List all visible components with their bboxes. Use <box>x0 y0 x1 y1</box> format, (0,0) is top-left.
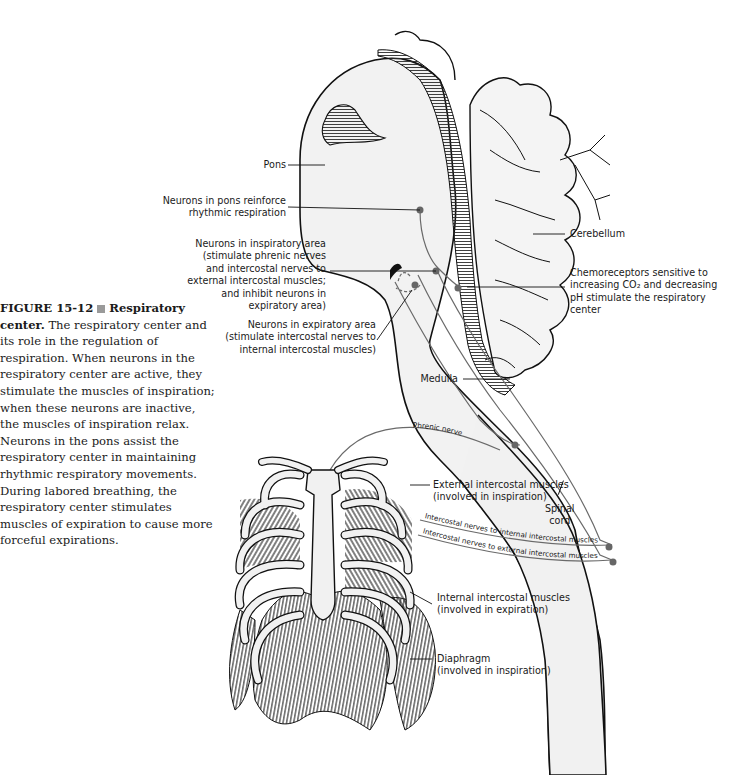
label-line: Diaphragm <box>437 653 551 665</box>
label-line: internal intercostal muscles) <box>190 344 376 356</box>
expiratory-area-label: Neurons in expiratory area (stimulate in… <box>190 319 376 356</box>
chemoreceptors-label: Chemoreceptors sensitive to increasing C… <box>570 267 717 317</box>
label-line: rhythmic respiration <box>130 207 286 219</box>
label-line: Internal intercostal muscles <box>437 592 570 604</box>
chemoreceptor-dot <box>455 285 462 292</box>
label-line: Neurons in pons reinforce <box>130 195 286 207</box>
label-line: center <box>570 304 717 316</box>
label-line: External intercostal muscles <box>433 479 569 491</box>
diaphragm-label: Diaphragm (involved in inspiration) <box>437 653 551 678</box>
rib-cage-drawing <box>230 460 436 730</box>
cerebellum-label: Cerebellum <box>570 228 625 240</box>
label-line: Chemoreceptors sensitive to <box>570 267 717 279</box>
pons-label: Pons <box>230 159 286 171</box>
external-synapse-dot <box>610 559 617 566</box>
pons-neurons-label: Neurons in pons reinforce rhythmic respi… <box>130 195 286 220</box>
inspiratory-area-label: Neurons in inspiratory area (stimulate p… <box>150 238 326 312</box>
label-line: external intercostal muscles; <box>150 275 326 287</box>
internal-intercostal-label: Internal intercostal muscles (involved i… <box>437 592 570 617</box>
label-line: expiratory area) <box>150 300 326 312</box>
label-line: cord <box>545 515 574 527</box>
internal-synapse-dot <box>606 544 613 551</box>
label-line: (involved in inspiration) <box>437 665 551 677</box>
label-line: and inhibit neurons in <box>150 288 326 300</box>
label-line: (involved in expiration) <box>437 604 570 616</box>
spinal-cord-label: Spinal cord <box>545 503 574 528</box>
medulla-label: Medulla <box>400 373 458 385</box>
label-line: pH stimulate the respiratory <box>570 292 717 304</box>
label-line: (involved in inspiration) <box>433 491 569 503</box>
anatomy-illustration: Phrenic nerve Intercostal nerves to inte… <box>0 0 729 775</box>
phrenic-synapse-dot <box>512 442 519 449</box>
label-line: Neurons in inspiratory area <box>150 238 326 250</box>
label-line: (stimulate intercostal nerves to <box>190 331 376 343</box>
expiratory-neuron-dot <box>412 282 419 289</box>
label-line: Spinal <box>545 503 574 515</box>
external-intercostal-label: External intercostal muscles (involved i… <box>433 479 569 504</box>
label-line: and intercostal nerves to <box>150 263 326 275</box>
label-line: Neurons in expiratory area <box>190 319 376 331</box>
label-line: increasing CO₂ and decreasing <box>570 279 717 291</box>
sternum <box>306 470 340 620</box>
label-line: (stimulate phrenic nerves <box>150 250 326 262</box>
